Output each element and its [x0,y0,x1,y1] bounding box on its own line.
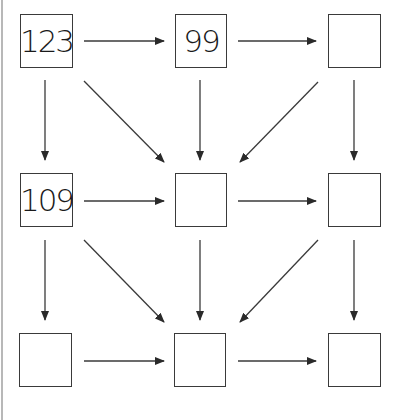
cell-r1c1[interactable]: 123 [20,14,73,68]
cell-value: 109 [20,182,73,218]
cell-r3c3[interactable] [328,333,381,387]
arrow-r2c1-r3c2 [84,240,164,322]
cell-r2c2[interactable] [175,173,227,227]
cell-r1c2[interactable]: 99 [175,14,227,68]
cell-r1c3[interactable] [328,14,381,68]
arrow-r1c3-r2c2 [240,82,318,162]
cell-r2c3[interactable] [328,173,381,227]
cell-value: 123 [20,23,73,59]
cell-r2c1[interactable]: 109 [20,173,73,227]
arrow-r2c3-r3c2 [240,240,318,322]
cell-r3c2[interactable] [174,333,226,387]
cell-r3c1[interactable] [19,333,72,387]
arrow-r1c1-r2c2 [84,81,164,162]
cell-value: 99 [183,23,218,59]
